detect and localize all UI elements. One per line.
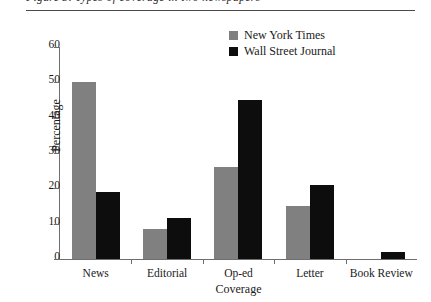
- plot-area: NewsEditorialOp-edLetterBook Review: [60, 47, 417, 259]
- bar-group: [346, 47, 417, 259]
- y-tick-label: 20: [49, 179, 61, 191]
- bar-group-bars: [346, 47, 417, 259]
- bar[interactable]: [96, 192, 120, 259]
- bar-group-bars: [131, 47, 202, 259]
- bar-group-bars: [203, 47, 274, 259]
- x-tick-mark: [274, 259, 275, 264]
- y-tick-label: 30: [49, 144, 61, 156]
- bar[interactable]: [310, 185, 334, 259]
- y-tick-label: 60: [49, 38, 61, 50]
- bar-group: [203, 47, 274, 259]
- bar-group-bars: [274, 47, 345, 259]
- legend-label-nyt: New York Times: [244, 28, 325, 43]
- y-tick-label: 10: [49, 215, 61, 227]
- chart-legend: New York Times Wall Street Journal: [229, 28, 409, 60]
- x-tick-mark: [346, 259, 347, 264]
- bar[interactable]: [381, 252, 405, 259]
- x-tick-label: Book Review: [326, 267, 431, 279]
- legend-swatch-icon-wsj: [229, 47, 238, 56]
- bar[interactable]: [286, 206, 310, 259]
- x-tick-mark: [131, 259, 132, 264]
- legend-item-nyt: New York Times: [229, 28, 409, 43]
- y-tick-mark: [54, 224, 59, 225]
- legend-label-wsj: Wall Street Journal: [244, 44, 336, 59]
- bar-group-bars: [60, 47, 131, 259]
- bar[interactable]: [72, 82, 96, 259]
- bar-chart-figure: Percentage Coverage 0102030405060 NewsEd…: [0, 14, 431, 302]
- figure-caption: Figure 3. Types of coverage in two newsp…: [26, 0, 416, 3]
- bar[interactable]: [214, 167, 238, 259]
- bar[interactable]: [238, 100, 262, 259]
- x-axis-label: Coverage: [60, 282, 417, 297]
- legend-swatch-icon-nyt: [229, 31, 238, 40]
- y-tick-mark: [54, 47, 59, 48]
- bar-group: [274, 47, 345, 259]
- bar-group: [131, 47, 202, 259]
- y-tick-mark: [54, 118, 59, 119]
- bar[interactable]: [143, 229, 167, 259]
- y-tick-mark: [54, 259, 59, 260]
- header-divider: [26, 10, 415, 11]
- y-tick-label: 40: [49, 109, 61, 121]
- y-tick-mark: [54, 188, 59, 189]
- bar[interactable]: [167, 218, 191, 259]
- y-tick-label: 50: [49, 73, 61, 85]
- x-axis-line: [59, 259, 417, 260]
- legend-item-wsj: Wall Street Journal: [229, 44, 409, 59]
- bar-group: [60, 47, 131, 259]
- y-tick-mark: [54, 82, 59, 83]
- y-tick-mark: [54, 153, 59, 154]
- figure-header: Figure 3. Types of coverage in two newsp…: [0, 0, 431, 14]
- x-tick-mark: [203, 259, 204, 264]
